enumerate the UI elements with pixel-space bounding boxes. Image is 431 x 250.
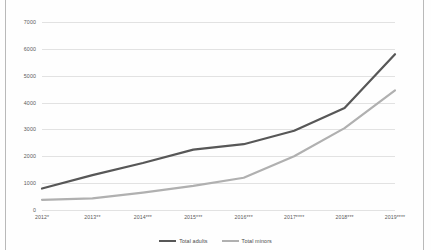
x-tick-label: 2013**: [84, 214, 100, 220]
gridline: [42, 210, 395, 211]
y-tick-label: 2000: [24, 153, 36, 159]
left-border-rule: [5, 0, 6, 250]
y-tick-label: 7000: [24, 19, 36, 25]
x-tick-label: 2018***: [335, 214, 353, 220]
x-tick-label: 2015***: [184, 214, 202, 220]
legend-item[interactable]: Total adults: [159, 238, 207, 244]
legend-item[interactable]: Total minors: [222, 238, 272, 244]
legend-swatch-icon: [222, 240, 239, 243]
series-line: [42, 54, 395, 188]
right-border-rule: [423, 0, 424, 250]
y-tick-label: 5000: [24, 73, 36, 79]
x-tick-label: 2014***: [134, 214, 152, 220]
y-tick-label: 0: [33, 207, 36, 213]
x-tick-label: 2016***: [235, 214, 253, 220]
series-lines: [42, 22, 395, 210]
x-tick-label: 2019****: [385, 214, 405, 220]
y-tick-label: 4000: [24, 100, 36, 106]
legend-label: Total minors: [242, 238, 272, 244]
legend-label: Total adults: [179, 238, 207, 244]
x-tick-label: 2017****: [284, 214, 304, 220]
legend-swatch-icon: [159, 240, 176, 243]
y-tick-label: 3000: [24, 126, 36, 132]
series-line: [42, 90, 395, 199]
x-tick-label: 2012*: [35, 214, 49, 220]
chart-container: 01000200030004000500060007000 2012*2013*…: [0, 0, 431, 250]
y-tick-label: 1000: [24, 180, 36, 186]
chart-legend: Total adultsTotal minors: [0, 238, 431, 244]
y-tick-label: 6000: [24, 46, 36, 52]
plot-area: 01000200030004000500060007000 2012*2013*…: [42, 22, 395, 210]
